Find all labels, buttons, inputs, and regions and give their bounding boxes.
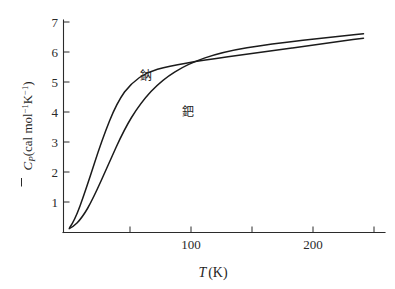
- y-axis-title-sup2: −1: [20, 86, 30, 95]
- x-tick-label-100: 100: [181, 237, 201, 252]
- chart-canvas: 7 6 5 4 3 2 1 100 200 鈉 鈀: [0, 0, 395, 289]
- x-axis-tick-labels: 100 200: [181, 237, 323, 252]
- x-axis-ticks: [130, 227, 374, 233]
- y-axis-tick-labels: 7 6 5 4 3 2 1: [52, 15, 59, 210]
- y-axis-ticks: [64, 22, 70, 202]
- x-axis-title-symbol: T: [198, 265, 207, 280]
- y-tick-label-5: 5: [52, 75, 59, 90]
- x-axis-title: T(K): [198, 265, 228, 281]
- y-tick-label-6: 6: [52, 45, 59, 60]
- y-axis-title: CP(cal mol−1K−1): [20, 82, 37, 187]
- y-tick-label-1: 1: [52, 195, 59, 210]
- x-tick-label-200: 200: [303, 237, 323, 252]
- x-axis-title-unit: (K): [208, 265, 228, 281]
- y-axis-title-close: ): [20, 82, 35, 86]
- series-label-palladium: 鈀: [182, 105, 194, 119]
- y-tick-label-7: 7: [52, 15, 59, 30]
- curve-palladium: [69, 34, 363, 229]
- series-label-sodium: 鈉: [140, 68, 152, 83]
- curve-sodium: [70, 38, 364, 228]
- y-tick-label-4: 4: [52, 105, 59, 120]
- y-axis-title-symbol: C: [20, 161, 35, 170]
- y-tick-label-3: 3: [52, 135, 59, 150]
- y-axis-title-sup1: −1: [20, 104, 30, 113]
- y-axis-title-text: CP(cal mol−1K−1): [20, 82, 37, 171]
- y-axis-title-unit-open: (cal mol: [20, 113, 35, 156]
- chart-figure: 7 6 5 4 3 2 1 100 200 鈉 鈀: [0, 0, 395, 289]
- y-tick-label-2: 2: [52, 165, 59, 180]
